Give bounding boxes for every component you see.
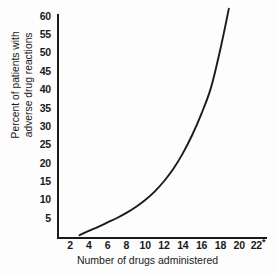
- y-axis-title-line-1: Percent of patients with: [10, 31, 21, 138]
- y-axis-title-line-2: adverse drug reactions: [23, 0, 36, 170]
- chart-figure: 51015202530354045505560 2468101214161820…: [0, 0, 278, 274]
- data-series-line: [79, 9, 228, 236]
- y-axis-title: Percent of patients with adverse drug re…: [10, 0, 36, 170]
- x-axis-title: Number of drugs administered: [40, 254, 255, 266]
- plot-area: [0, 0, 278, 274]
